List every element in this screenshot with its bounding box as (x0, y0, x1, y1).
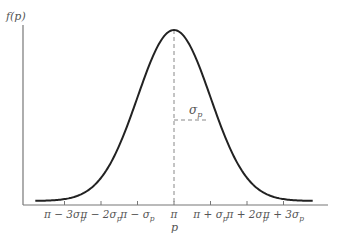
x-tick-label: π − 2σp (79, 208, 121, 223)
normal-distribution-figure: f(p) π − 3σpπ − 2σpπ − σpππ + σpπ + 2σpπ… (0, 0, 339, 238)
x-tick-label: π − σp (119, 208, 155, 223)
sigma-annotation: σp (189, 103, 202, 119)
x-axis-ticks: π − 3σpπ − 2σpπ − σpππ + σpπ + 2σpπ + 3σ… (43, 201, 304, 223)
x-tick-label: π + σp (192, 208, 228, 223)
x-tick-label: π + 3σp (262, 208, 304, 223)
x-tick-label: π − 3σp (43, 208, 85, 223)
x-tick-label: π (170, 208, 179, 220)
y-axis-label: f(p) (5, 10, 26, 23)
x-axis-label: p (171, 221, 178, 234)
x-tick-label: π + 2σp (225, 208, 267, 223)
